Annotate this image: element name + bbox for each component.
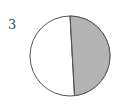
- divided-circle-figure: [0, 0, 114, 107]
- shaded-region: [70, 16, 110, 96]
